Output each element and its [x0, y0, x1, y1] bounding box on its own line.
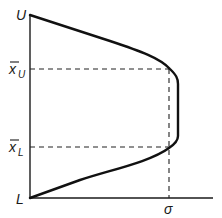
xbar-upper-base: x — [8, 61, 17, 77]
profile-curve — [30, 15, 178, 198]
xbar-lower-subscript: L — [18, 147, 24, 158]
xbar-upper-subscript: U — [18, 69, 26, 80]
xbar-lower-base: x — [8, 139, 17, 155]
xbar-lower-label: x L — [8, 139, 24, 158]
lower-limit-label: L — [16, 191, 24, 207]
profile-diagram: U x U x L L σ — [0, 0, 222, 218]
xbar-upper-label: x U — [8, 61, 26, 80]
upper-limit-label: U — [16, 7, 27, 23]
sigma-label: σ — [164, 201, 173, 217]
